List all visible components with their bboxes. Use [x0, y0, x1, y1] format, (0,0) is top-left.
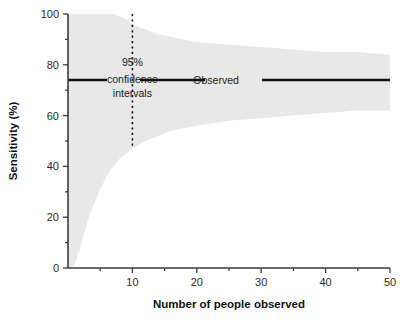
y-tick-label: 40	[47, 160, 59, 172]
x-axis-title: Number of people observed	[153, 298, 305, 310]
observed-annotation-label: Observed	[193, 74, 239, 86]
y-tick-label: 100	[41, 8, 59, 20]
ci-annotation-line-2: confidence	[107, 73, 158, 85]
confidence-interval-band	[68, 14, 390, 268]
y-tick-label: 20	[47, 211, 59, 223]
x-tick-label: 20	[191, 276, 203, 288]
y-tick-label: 0	[53, 262, 59, 274]
y-tick-label: 60	[47, 110, 59, 122]
y-tick-label: 80	[47, 59, 59, 71]
x-tick-label: 50	[384, 276, 396, 288]
y-axis-tick-labels: 020406080100	[41, 8, 59, 274]
ci-annotation-line-3: intervals	[113, 87, 152, 99]
ci-annotation-line-1: 95%	[122, 56, 143, 68]
x-axis-tick-labels: 1020304050	[126, 276, 396, 288]
y-axis-title: Sensitivity (%)	[7, 102, 19, 181]
x-tick-label: 30	[255, 276, 267, 288]
x-tick-label: 40	[319, 276, 331, 288]
x-tick-label: 10	[126, 276, 138, 288]
sensitivity-confidence-interval-chart: 1020304050 020406080100 95% confidence i…	[0, 0, 400, 324]
chart-canvas: 1020304050 020406080100 95% confidence i…	[0, 0, 400, 324]
